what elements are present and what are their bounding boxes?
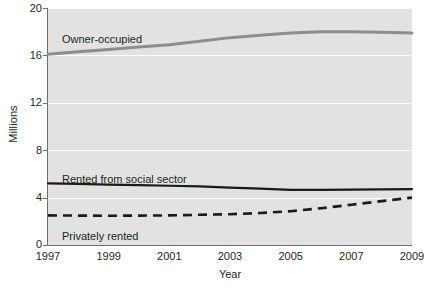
series-label-privately-rented: Privately rented [62, 230, 138, 242]
series-label-social-sector: Rented from social sector [62, 173, 187, 185]
series-label-owner-occupied: Owner-occupied [62, 33, 142, 45]
housing-tenure-line-chart: 20 16 12 8 4 0 1997 1999 2001 2003 2005 … [0, 0, 432, 293]
series-line-privately-rented [48, 198, 412, 216]
